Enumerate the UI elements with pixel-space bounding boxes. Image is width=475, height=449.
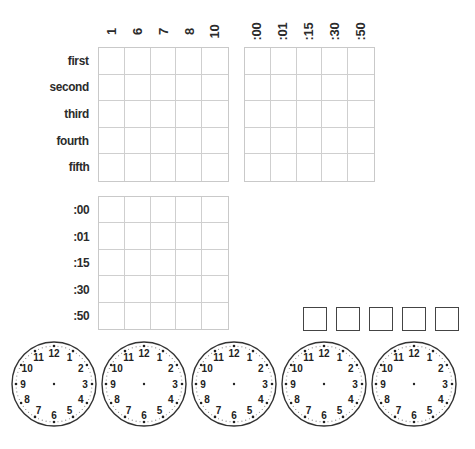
grid-cell[interactable]	[125, 197, 151, 223]
grid-cell[interactable]	[151, 276, 177, 302]
grid-cell[interactable]	[176, 197, 202, 223]
grid-cell[interactable]	[99, 223, 125, 249]
answer-box[interactable]	[402, 307, 426, 331]
clock-numeral: 8	[204, 394, 210, 405]
clock-face-icon[interactable]: 121234567891011	[369, 339, 459, 429]
row-label: first	[68, 48, 89, 74]
grid-cell[interactable]	[271, 48, 297, 75]
grid-cell[interactable]	[151, 223, 177, 249]
grid-cell[interactable]	[202, 303, 228, 329]
clock-numeral: 1	[337, 352, 343, 363]
grid-cell[interactable]	[99, 197, 125, 223]
grid-cell[interactable]	[176, 276, 202, 302]
grid-cell[interactable]	[176, 223, 202, 249]
clock-numeral: 9	[290, 379, 296, 390]
grid-cell[interactable]	[151, 197, 177, 223]
grid-cell[interactable]	[297, 101, 323, 128]
grid-cell[interactable]	[151, 101, 177, 128]
clock-numeral: 4	[168, 394, 174, 405]
grid-cell[interactable]	[176, 48, 202, 75]
grid-cell[interactable]	[176, 128, 202, 155]
grid-cell[interactable]	[99, 75, 125, 102]
answer-box[interactable]	[369, 307, 393, 331]
clock-numeral: 5	[427, 405, 433, 416]
grid-cell[interactable]	[202, 48, 228, 75]
grid-cell[interactable]	[99, 154, 125, 181]
grid-cell[interactable]	[151, 128, 177, 155]
clock-numeral: 3	[82, 379, 88, 390]
grid-cell[interactable]	[176, 154, 202, 181]
grid-cell[interactable]	[202, 154, 228, 181]
clock-face-icon[interactable]: 121234567891011	[279, 339, 369, 429]
grid-cell[interactable]	[322, 101, 348, 128]
grid-cell[interactable]	[99, 128, 125, 155]
grid-cell[interactable]	[297, 128, 323, 155]
grid-cell[interactable]	[245, 75, 271, 102]
grid-cell[interactable]	[151, 48, 177, 75]
grid-cell[interactable]	[271, 154, 297, 181]
grid-cell[interactable]	[176, 250, 202, 276]
clock-numeral: 9	[110, 379, 116, 390]
clock-numeral: 4	[438, 394, 444, 405]
grid-cell[interactable]	[176, 101, 202, 128]
grid-cell[interactable]	[151, 154, 177, 181]
row-label: fourth	[57, 128, 89, 154]
grid-cell[interactable]	[125, 48, 151, 75]
column-header-text: 8	[182, 28, 197, 35]
grid-cell[interactable]	[322, 75, 348, 102]
grid-cell[interactable]	[297, 48, 323, 75]
grid-cell[interactable]	[245, 101, 271, 128]
grid-cell[interactable]	[297, 154, 323, 181]
grid-cell[interactable]	[348, 48, 374, 75]
grid-cell[interactable]	[202, 197, 228, 223]
column-header: :15	[296, 21, 322, 41]
grid-cell[interactable]	[125, 250, 151, 276]
grid-cell[interactable]	[151, 250, 177, 276]
grid-cell[interactable]	[271, 101, 297, 128]
grid-cell[interactable]	[245, 48, 271, 75]
grid-cell[interactable]	[125, 276, 151, 302]
grid-cell[interactable]	[125, 128, 151, 155]
grid-cell[interactable]	[99, 48, 125, 75]
grid-cell[interactable]	[99, 276, 125, 302]
grid-cell[interactable]	[322, 154, 348, 181]
grid-cell[interactable]	[271, 75, 297, 102]
grid-cell[interactable]	[176, 303, 202, 329]
grid-cell[interactable]	[99, 250, 125, 276]
grid-cell[interactable]	[271, 128, 297, 155]
grid-cell[interactable]	[151, 75, 177, 102]
answer-box[interactable]	[336, 307, 360, 331]
grid-cell[interactable]	[125, 154, 151, 181]
grid-cell[interactable]	[322, 128, 348, 155]
grid-cell[interactable]	[202, 101, 228, 128]
answer-box[interactable]	[303, 307, 327, 331]
grid-cell[interactable]	[202, 276, 228, 302]
grid-cell[interactable]	[348, 128, 374, 155]
grid-cell[interactable]	[322, 48, 348, 75]
grid-cell[interactable]	[125, 101, 151, 128]
grid-cell[interactable]	[176, 75, 202, 102]
grid-cell[interactable]	[202, 128, 228, 155]
clock-face-icon[interactable]: 121234567891011	[9, 339, 99, 429]
column-header-text: 10	[208, 24, 223, 38]
grid-cell[interactable]	[348, 154, 374, 181]
grid-cell[interactable]	[125, 223, 151, 249]
column-header-text: 6	[130, 28, 145, 35]
grid-cell[interactable]	[99, 101, 125, 128]
grid-cell[interactable]	[297, 75, 323, 102]
grid-cell[interactable]	[202, 223, 228, 249]
grid-cell[interactable]	[125, 75, 151, 102]
grid-cell[interactable]	[125, 303, 151, 329]
grid-cell[interactable]	[99, 303, 125, 329]
clock-face-icon[interactable]: 121234567891011	[99, 339, 189, 429]
grid-cell[interactable]	[348, 75, 374, 102]
clock-face-icon[interactable]: 121234567891011	[189, 339, 279, 429]
grid-cell[interactable]	[202, 250, 228, 276]
grid-cell[interactable]	[245, 154, 271, 181]
grid-cell[interactable]	[348, 101, 374, 128]
grid-cell[interactable]	[202, 75, 228, 102]
grid-cell[interactable]	[151, 303, 177, 329]
grid-cell[interactable]	[245, 128, 271, 155]
answer-box[interactable]	[435, 307, 459, 331]
clock-numeral: 7	[36, 405, 42, 416]
